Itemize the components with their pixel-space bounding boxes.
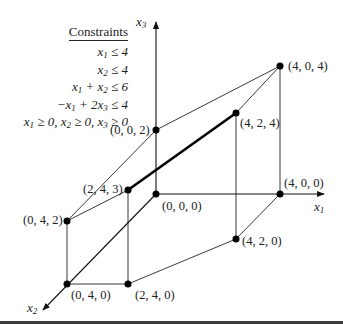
vertex-label: (4, 0, 0) (284, 177, 324, 190)
vertex-400 (277, 191, 284, 198)
vertex-label: (2, 4, 3) (83, 183, 123, 196)
vertex-042 (64, 218, 71, 225)
vertex-002 (153, 127, 160, 134)
constraints-panel: Constraints x1 ≤ 4 x2 ≤ 4 x1 + x2 ≤ 6 −x… (0, 22, 128, 133)
vertex-243 (125, 187, 132, 194)
constraint-row: x1 + x2 ≤ 6 (0, 80, 128, 98)
vertex-404 (277, 63, 284, 70)
constraint-row: x2 ≤ 4 (0, 63, 128, 81)
vertex-label: (4, 2, 4) (240, 117, 280, 130)
vertex-label: (0, 4, 0) (71, 289, 111, 302)
vertex-424 (233, 110, 240, 117)
x2-axis-label: x2 (27, 300, 37, 316)
vertex-label: (0, 4, 2) (23, 214, 63, 227)
vertex-label: (4, 2, 0) (242, 235, 282, 248)
vertex-label: (2, 4, 0) (135, 289, 175, 302)
vertex-000 (153, 191, 160, 198)
vertex-label: (4, 0, 4) (288, 60, 328, 73)
constraints-title: Constraints (69, 24, 128, 41)
vertex-label: (0, 0, 2) (110, 124, 150, 137)
constraint-row: −x1 + 2x3 ≤ 4 (0, 98, 128, 116)
constraint-row: x1 ≤ 4 (0, 45, 128, 63)
vertex-label: (0, 0, 0) (162, 200, 202, 213)
vertex-240 (125, 281, 132, 288)
vertex-040 (64, 281, 71, 288)
x1-axis-label: x1 (314, 199, 324, 215)
vertex-420 (233, 236, 240, 243)
x3-axis-label: x3 (136, 14, 146, 30)
constraint-row: x1 ≥ 0, x2 ≥ 0, x3 ≥ 0 (0, 115, 128, 133)
